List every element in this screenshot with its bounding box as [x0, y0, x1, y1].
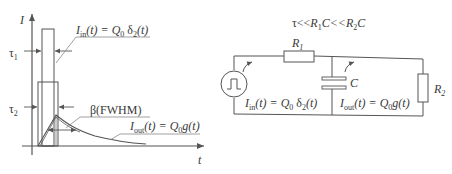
- input-pulse-label: Iin(t) = Q0 δ2(t): [75, 23, 148, 39]
- resistor-r2: [418, 74, 428, 102]
- resistor-r1: [284, 51, 314, 62]
- output-label: Iout(t) = Q0g(t): [129, 119, 200, 135]
- capacitor-label: C: [350, 76, 359, 90]
- input-current-label: Iin(t) = Q0 δ2(t): [244, 96, 317, 112]
- wire-top-left: [234, 56, 284, 70]
- output-current-label: Iout(t) = Q0g(t): [339, 96, 410, 112]
- time-constant-condition: τ<<R1C<<R2C: [292, 16, 366, 32]
- input-current-arrow-icon: [243, 62, 252, 72]
- output-label-leader: [110, 134, 200, 140]
- capacitor-plate-top: [322, 77, 346, 80]
- y-axis-label: I: [19, 13, 25, 27]
- capacitor-plate-bottom: [322, 86, 346, 89]
- input-pulse-tau2: [38, 82, 58, 146]
- x-axis-label: t: [198, 153, 202, 167]
- tau1-label: τ1: [9, 46, 18, 62]
- tau2-label: τ2: [9, 102, 18, 118]
- r1-label: R1: [291, 36, 303, 52]
- fwhm-label: β(FWHM): [90, 103, 141, 117]
- input-label-leader: [56, 37, 150, 63]
- wire-top-right: [314, 56, 423, 74]
- rc-circuit: τ<<R1C<<R2C R1 R2 C Iin(t) = Q0 δ2(t) Io…: [221, 16, 445, 116]
- r2-label: R2: [433, 82, 445, 98]
- diagram-canvas: I t τ1 τ2 Iin(t) = Q0 δ2(t) β(FWHM) Iout…: [0, 0, 452, 174]
- pulse-source-icon: [221, 71, 247, 97]
- output-current-arrow-icon: [345, 62, 354, 72]
- pulse-response-plot: I t τ1 τ2 Iin(t) = Q0 δ2(t) β(FWHM) Iout…: [9, 13, 204, 167]
